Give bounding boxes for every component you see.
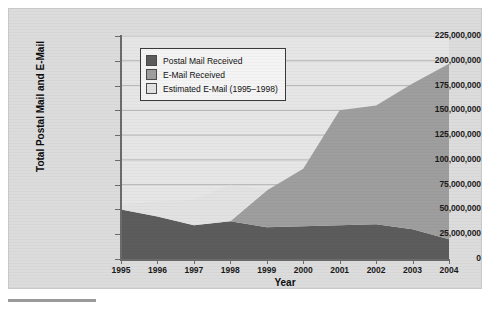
legend-item: Estimated E-Mail (1995–1998) [146,82,278,95]
y-tick-label: 225,000,000 [395,31,481,40]
legend-label-postal: Postal Mail Received [163,56,242,66]
y-tick-label: 175,000,000 [395,81,481,90]
y-tick-mark [115,135,120,136]
y-tick-mark [115,209,120,210]
x-tick-mark [194,260,195,264]
y-tick-mark [115,61,120,62]
x-tick-label: 1995 [101,265,141,275]
chart-panel: 025,000,00050,000,00075,000,000100,000,0… [8,8,482,289]
legend-item: E-Mail Received [146,68,278,81]
y-tick-label: 150,000,000 [395,105,481,114]
x-tick-label: 2000 [283,265,323,275]
y-tick-mark [115,234,120,235]
x-tick-mark [267,260,268,264]
x-tick-label: 1996 [137,265,177,275]
x-tick-mark [230,260,231,264]
x-tick-label: 2003 [393,265,433,275]
footer-rule [8,299,96,302]
x-tick-label: 1997 [174,265,214,275]
legend-swatch-postal [146,55,157,66]
y-tick-label: 100,000,000 [395,155,481,164]
y-tick-mark [115,160,120,161]
x-tick-mark [413,260,414,264]
y-tick-label: 125,000,000 [395,130,481,139]
y-tick-mark [115,36,120,37]
y-tick-mark [115,185,120,186]
legend-label-email: E-Mail Received [163,70,225,80]
y-tick-label: 0 [395,254,481,263]
x-tick-label: 2004 [429,265,469,275]
y-tick-mark [115,86,120,87]
y-tick-label: 25,000,000 [395,229,481,238]
legend-swatch-email [146,69,157,80]
x-tick-mark [303,260,304,264]
x-tick-mark [449,260,450,264]
y-tick-mark [115,110,120,111]
y-tick-label: 75,000,000 [395,180,481,189]
x-tick-label: 1999 [247,265,287,275]
y-tick-label: 200,000,000 [395,56,481,65]
legend-label-estimated: Estimated E-Mail (1995–1998) [163,84,278,94]
x-tick-mark [157,260,158,264]
x-tick-label: 2001 [320,265,360,275]
x-axis-title: Year [121,277,449,288]
legend-swatch-estimated [146,83,157,94]
y-axis-title: Total Postal Mail and E-Mail [35,12,46,202]
legend-item: Postal Mail Received [146,54,278,67]
y-axis-line [120,35,122,261]
y-tick-mark [115,259,120,260]
x-tick-mark [376,260,377,264]
chart-legend: Postal Mail Received E-Mail Received Est… [140,48,286,101]
x-tick-label: 2002 [356,265,396,275]
chart-figure: 025,000,00050,000,00075,000,000100,000,0… [0,0,490,309]
y-tick-label: 50,000,000 [395,204,481,213]
x-tick-mark [121,260,122,264]
x-tick-label: 1998 [210,265,250,275]
x-tick-mark [340,260,341,264]
